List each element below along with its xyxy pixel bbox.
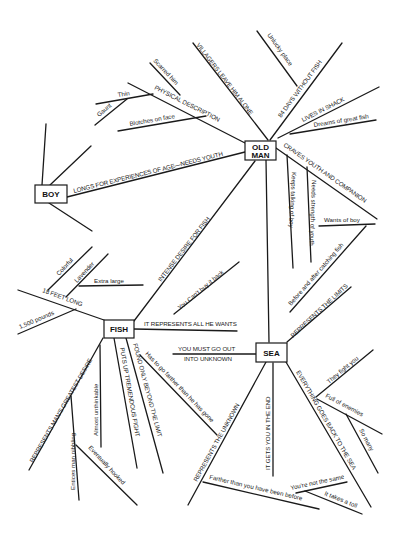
node-fish-label: FISH <box>110 325 128 334</box>
label-unknown: REPRESENTS THE UNKNOWN <box>192 402 241 482</box>
node-boy[interactable]: BOY <box>35 185 67 203</box>
label-thin: Thin <box>117 89 131 98</box>
branch-represents-all <box>134 329 237 331</box>
label-gets-you: IT GETS YOU IN THE END <box>264 396 271 470</box>
branch-unthinkable <box>100 345 101 447</box>
label-fight-you: They fight you <box>325 354 360 385</box>
label-hooked: Eventually hooked <box>87 444 127 486</box>
branch-wants <box>319 224 375 226</box>
label-wants: Wants of boy <box>324 216 361 223</box>
node-old-man[interactable]: OLD MAN <box>245 141 276 160</box>
label-keeps: Keeps talking of boy <box>288 172 298 229</box>
label-go-out-1: YOU MUST GO OUT <box>178 345 235 352</box>
branch-physical <box>128 83 245 143</box>
label-scarred: Scarred him <box>152 57 180 86</box>
label-greatest-desire: REPRESENTS MAN'S GREATEST DESIRE <box>28 357 93 463</box>
label-lavender: Lavender <box>73 260 96 284</box>
label-needs: Needs strength of youth <box>309 180 318 246</box>
label-extra-large: Extra large <box>94 277 124 284</box>
label-cant-buy: You Can't buy it back <box>176 268 225 311</box>
branch-fight-you <box>316 350 373 397</box>
node-fish[interactable]: FISH <box>104 320 134 338</box>
boy-stub-3 <box>49 203 92 231</box>
branch-hooked <box>76 445 137 505</box>
label-represents-all: IT REPRESENTS ALL HE WANTS <box>144 320 237 327</box>
node-sea[interactable]: SEA <box>256 343 287 362</box>
label-entices: Entices man nibbling <box>69 432 76 490</box>
label-intense: INTENSE DESIRE FOR FISH <box>156 215 211 282</box>
link-old-man-sea <box>266 160 269 342</box>
node-sea-label: SEA <box>263 349 280 358</box>
label-go-out-2: INTO UNKNOWN <box>184 355 232 362</box>
boy-branches <box>42 124 92 231</box>
label-villagers: VILLAGERS LEAVE HIM ALONE <box>195 41 254 115</box>
concept-map: OLD MAN BOY FISH SEA VILLAGERS LEAVE HIM… <box>0 0 403 539</box>
label-unthinkable: Almost unthinkable <box>92 383 99 436</box>
node-boy-label: BOY <box>42 190 60 199</box>
branch-84-days <box>270 43 342 140</box>
boy-stub-2 <box>50 146 91 185</box>
node-old-man-line2: MAN <box>251 151 269 160</box>
link-old-man-boy <box>67 152 245 197</box>
branch-extra-large <box>79 285 143 286</box>
label-longs: LONGS FOR EXPERIENCES OF AGE—NEEDS YOUTH <box>73 150 224 194</box>
boy-stub-1 <box>42 124 46 185</box>
label-18-feet: 18 FEET LONG <box>42 286 84 307</box>
